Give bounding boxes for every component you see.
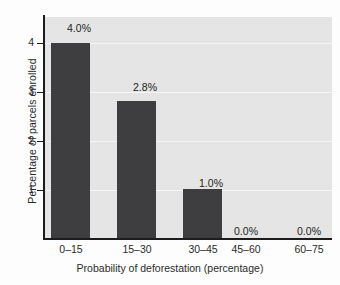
y-tick-label-4: 4 xyxy=(4,36,34,48)
x-tick-label-60-75: 60–75 xyxy=(278,243,340,255)
x-tick-label-0-15: 0–15 xyxy=(40,243,102,255)
bar-0-15[interactable] xyxy=(51,43,90,238)
x-tick-label-15-30: 15–30 xyxy=(106,243,168,255)
y-tick-label-2: 2 xyxy=(4,134,34,146)
y-axis-title: Percentage of parcels enrolled xyxy=(26,26,38,236)
y-tick-label-1: 1 xyxy=(4,183,34,195)
y-axis-line xyxy=(43,15,45,239)
y-tick-label-3: 3 xyxy=(4,85,34,97)
data-label-0-15: 4.0% xyxy=(48,22,110,34)
plot-area xyxy=(44,17,332,238)
data-label-45-60: 0.0% xyxy=(215,225,277,237)
x-tick-label-45-60: 45–60 xyxy=(215,243,277,255)
y-tick-mark-2 xyxy=(37,141,44,142)
data-label-30-45: 1.0% xyxy=(180,177,242,189)
x-axis-title: Probability of deforestation (percentage… xyxy=(0,262,340,274)
bar-15-30[interactable] xyxy=(117,101,156,238)
y-tick-mark-3 xyxy=(37,92,44,93)
x-axis-line xyxy=(43,238,332,240)
y-tick-mark-4 xyxy=(37,43,44,44)
y-tick-mark-1 xyxy=(37,190,44,191)
data-label-15-30: 2.8% xyxy=(114,81,176,93)
bar-chart-figure: Percentage of parcels enrolled 4 3 2 1 4… xyxy=(0,0,340,285)
data-label-60-75: 0.0% xyxy=(278,225,340,237)
